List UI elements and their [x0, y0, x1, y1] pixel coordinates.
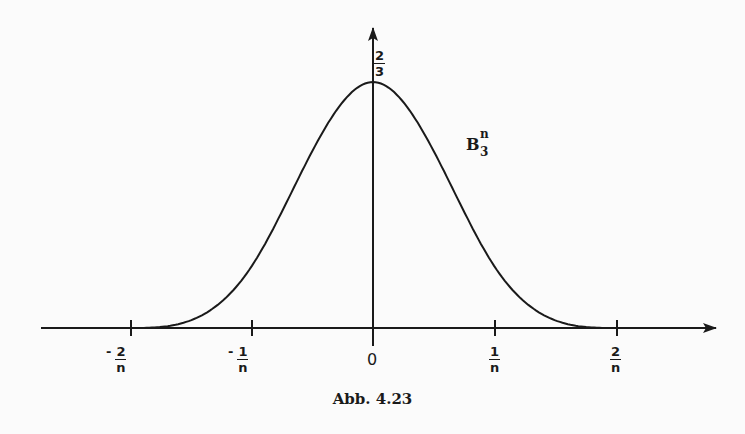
x-tick-label-two: 2n	[610, 344, 621, 374]
figure-caption: Abb. 4.23	[0, 390, 745, 408]
x-tick-label-minus-two: -2n	[106, 344, 126, 374]
y-tick-label-two-thirds: 23	[374, 48, 385, 78]
curve-label: B n 3	[466, 135, 480, 154]
x-tick-label-zero: 0	[367, 352, 377, 368]
x-tick-label-one: 1n	[489, 344, 500, 374]
x-tick-label-minus-one: -1n	[228, 344, 248, 374]
